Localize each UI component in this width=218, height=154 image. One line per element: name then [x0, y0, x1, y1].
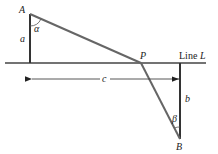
segment-a-label: a	[20, 33, 25, 44]
line-l-label-prefix: Line	[179, 50, 198, 61]
point-p-label: P	[139, 50, 146, 61]
path-pb	[141, 63, 180, 139]
diagram-canvas: A a α P Line L c b β B	[0, 0, 218, 154]
point-b-label: B	[176, 141, 182, 152]
angle-beta-label: β	[171, 113, 177, 124]
angle-alpha-label: α	[34, 23, 40, 34]
segment-c-label: c	[102, 73, 107, 84]
path-ap	[30, 14, 141, 63]
point-a-label: A	[18, 4, 26, 15]
segment-b-label: b	[185, 93, 190, 104]
line-l-label-var: L	[199, 50, 206, 61]
